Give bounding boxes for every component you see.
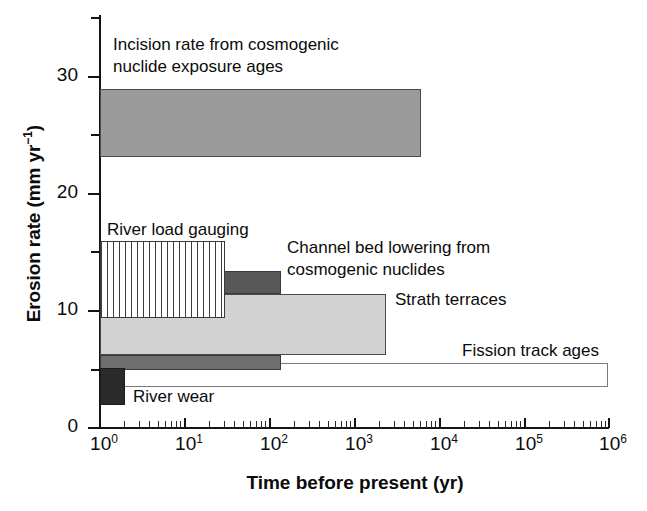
x-tick-minor	[605, 421, 606, 428]
annotation-incision-rate-line2: nuclide exposure ages	[113, 57, 283, 78]
x-tick-minor	[176, 421, 177, 428]
x-tick-minor	[250, 421, 251, 428]
x-tick-base: 10	[515, 433, 536, 454]
x-tick-exp: 6	[620, 432, 627, 446]
x-tick-label-1e6: 106	[599, 432, 627, 455]
x-tick-minor	[149, 421, 150, 428]
x-tick-base: 10	[345, 433, 366, 454]
y-tick-20	[88, 193, 100, 195]
y-tick-label-20: 20	[30, 181, 78, 203]
y-tick-minor-35	[91, 17, 100, 19]
annotation-channel-bed-line2: cosmogenic nuclides	[287, 260, 445, 281]
y-axis-title: Erosion rate (mm yr−1)	[21, 74, 44, 374]
x-tick-exp: 2	[281, 432, 288, 446]
x-tick-minor	[511, 421, 512, 428]
x-tick-minor	[394, 421, 395, 428]
x-tick-minor	[596, 421, 597, 428]
x-tick-1e5	[524, 418, 526, 428]
x-tick-minor	[549, 421, 550, 428]
x-tick-minor	[309, 421, 310, 428]
x-tick-minor	[426, 421, 427, 428]
annotation-channel-bed-line1: Channel bed lowering from	[287, 238, 490, 259]
x-tick-minor	[346, 421, 347, 428]
x-tick-label-1e2: 102	[260, 432, 288, 455]
x-tick-exp: 3	[366, 432, 373, 446]
y-tick-label-10: 10	[30, 298, 78, 320]
x-tick-minor	[341, 421, 342, 428]
x-tick-minor	[256, 421, 257, 428]
annotation-incision-rate-line1: Incision rate from cosmogenic	[113, 35, 339, 56]
x-tick-minor	[379, 421, 380, 428]
x-tick-1e4	[439, 418, 441, 428]
y-axis-title-tail: )	[23, 125, 44, 131]
x-tick-minor	[243, 421, 244, 428]
x-tick-base: 10	[260, 433, 281, 454]
x-tick-minor	[590, 421, 591, 428]
x-tick-minor	[404, 421, 405, 428]
y-tick-30	[88, 76, 100, 78]
x-tick-minor	[158, 421, 159, 428]
annotation-fission-track-ages: Fission track ages	[462, 341, 599, 362]
bar-river-load-gauging	[100, 241, 225, 318]
x-tick-minor	[180, 421, 181, 428]
x-tick-minor	[420, 421, 421, 428]
x-tick-minor	[124, 421, 125, 428]
y-tick-label-30: 30	[30, 64, 78, 86]
x-tick-minor	[574, 421, 575, 428]
x-tick-1e6	[608, 418, 610, 428]
y-axis-title-exponent: −1	[21, 131, 35, 144]
bar-channel-bed-lowering	[224, 271, 281, 294]
x-tick-base: 10	[430, 433, 451, 454]
bar-channel-bed-lower-strip	[100, 355, 281, 370]
x-tick-label-1e1: 101	[175, 432, 203, 455]
x-tick-minor	[435, 421, 436, 428]
x-tick-minor	[171, 421, 172, 428]
x-tick-label-1e3: 103	[345, 432, 373, 455]
x-tick-minor	[335, 421, 336, 428]
x-tick-base: 10	[175, 433, 196, 454]
x-tick-1e2	[269, 418, 271, 428]
bar-river-wear	[100, 368, 125, 405]
y-tick-10	[88, 310, 100, 312]
x-tick-label-1e0: 100	[90, 432, 118, 455]
y-tick-label-0: 0	[30, 415, 78, 437]
x-tick-minor	[505, 421, 506, 428]
x-tick-exp: 0	[111, 432, 118, 446]
y-tick-minor-25	[91, 134, 100, 136]
x-tick-minor	[261, 421, 262, 428]
x-tick-minor	[431, 421, 432, 428]
x-tick-label-1e5: 105	[515, 432, 543, 455]
x-axis-title: Time before present (yr)	[100, 472, 610, 494]
x-tick-minor	[413, 421, 414, 428]
x-tick-1e0	[99, 418, 101, 428]
x-tick-1e1	[184, 418, 186, 428]
x-tick-minor	[294, 421, 295, 428]
x-tick-minor	[139, 421, 140, 428]
x-tick-minor	[601, 421, 602, 428]
x-tick-minor	[464, 421, 465, 428]
x-tick-minor	[498, 421, 499, 428]
x-tick-base: 10	[90, 433, 111, 454]
x-tick-label-1e4: 104	[430, 432, 458, 455]
x-tick-minor	[209, 421, 210, 428]
x-tick-minor	[328, 421, 329, 428]
x-tick-exp: 4	[451, 432, 458, 446]
x-tick-minor	[224, 421, 225, 428]
erosion-rate-chart: Erosion rate (mm yr−1) 30 20 10 0	[0, 0, 647, 511]
x-tick-minor	[234, 421, 235, 428]
x-tick-minor	[479, 421, 480, 428]
x-tick-minor	[350, 421, 351, 428]
x-tick-minor	[165, 421, 166, 428]
bar-incision-rate	[100, 89, 421, 157]
y-axis-title-main: Erosion rate (mm yr	[23, 145, 44, 323]
x-tick-minor	[564, 421, 565, 428]
x-tick-minor	[319, 421, 320, 428]
x-tick-minor	[489, 421, 490, 428]
annotation-river-wear: River wear	[133, 387, 214, 408]
y-tick-minor-15	[91, 251, 100, 253]
x-tick-minor	[520, 421, 521, 428]
x-tick-1e3	[354, 418, 356, 428]
x-tick-exp: 5	[536, 432, 543, 446]
x-tick-minor	[583, 421, 584, 428]
x-tick-minor	[516, 421, 517, 428]
